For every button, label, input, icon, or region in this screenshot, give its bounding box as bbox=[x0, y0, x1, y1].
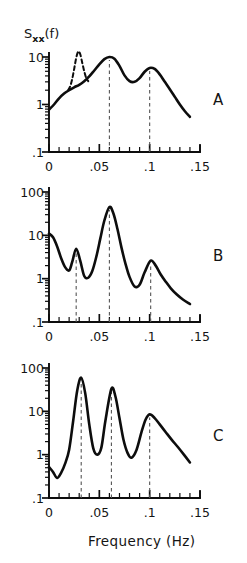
x-tick-label: .15 bbox=[190, 329, 210, 344]
y-tick-label: 10 bbox=[28, 404, 44, 419]
x-tick-label: .1 bbox=[144, 159, 156, 174]
x-tick-label: .1 bbox=[144, 505, 156, 520]
panel-c: .11101000.05.1.15 bbox=[20, 361, 210, 521]
y-tick-label: 10 bbox=[28, 228, 44, 243]
panel-a: .11100.05.1.15 bbox=[28, 50, 210, 175]
x-tick-label: 0 bbox=[45, 329, 53, 344]
spectrum-curve bbox=[49, 207, 190, 304]
x-tick-label: .15 bbox=[190, 159, 210, 174]
x-tick-label: 0 bbox=[45, 159, 53, 174]
y-tick-label: 1 bbox=[36, 97, 44, 112]
x-tick-label: 0 bbox=[45, 505, 53, 520]
y-tick-label: 100 bbox=[20, 361, 44, 376]
x-tick-label: .05 bbox=[89, 505, 109, 520]
y-tick-label: .1 bbox=[32, 315, 44, 330]
figure-root: .11100.05.1.15.11101000.05.1.15.11101000… bbox=[0, 0, 247, 563]
panel-b: .11101000.05.1.15 bbox=[20, 185, 210, 345]
y-tick-label: 1 bbox=[36, 447, 44, 462]
y-tick-label: 100 bbox=[20, 185, 44, 200]
spectrum-curve bbox=[49, 378, 190, 478]
x-tick-label: .05 bbox=[89, 329, 109, 344]
y-tick-label: 10 bbox=[28, 50, 44, 65]
x-tick-label: .05 bbox=[89, 159, 109, 174]
y-tick-label: 1 bbox=[36, 271, 44, 286]
x-tick-label: .15 bbox=[190, 505, 210, 520]
spectrum-figure: .11100.05.1.15.11101000.05.1.15.11101000… bbox=[0, 0, 247, 563]
y-tick-label: .1 bbox=[32, 145, 44, 160]
y-tick-label: .1 bbox=[32, 491, 44, 506]
x-tick-label: .1 bbox=[144, 329, 156, 344]
